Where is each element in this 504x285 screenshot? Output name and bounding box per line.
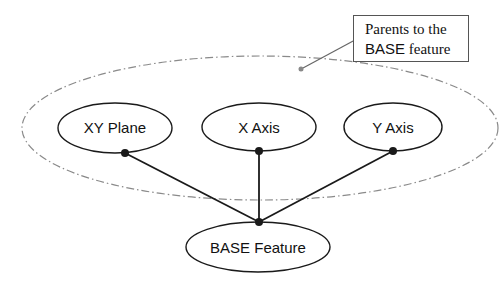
callout-line-2-feature: feature	[405, 41, 450, 57]
node-base-feature[interactable]: BASE Feature	[186, 222, 330, 272]
node-base-feature-label: BASE Feature	[210, 239, 306, 256]
callout-box: Parents to the BASE feature	[353, 15, 469, 62]
callout-line-1: Parents to the	[365, 20, 468, 39]
node-y-axis[interactable]: Y Axis	[344, 103, 442, 151]
callout-leader-line	[303, 40, 355, 68]
node-xy-plane-label: XY Plane	[84, 119, 146, 136]
edge-y-axis-to-base	[259, 151, 393, 222]
node-xy-plane[interactable]: XY Plane	[58, 103, 172, 153]
callout-anchor-dot	[299, 67, 304, 72]
diagram-canvas: XY Plane X Axis Y Axis BASE Feature Pare…	[0, 0, 504, 285]
connector-dot-xy-plane	[121, 149, 129, 157]
node-x-axis[interactable]: X Axis	[202, 103, 316, 151]
connector-dot-x-axis	[255, 147, 263, 155]
connector-dot-base	[255, 218, 263, 226]
callout-line-2-base: BASE	[365, 40, 405, 57]
edge-xy-plane-to-base	[125, 153, 259, 222]
connector-dot-y-axis	[389, 147, 397, 155]
node-y-axis-label: Y Axis	[372, 119, 413, 136]
node-x-axis-label: X Axis	[238, 119, 280, 136]
